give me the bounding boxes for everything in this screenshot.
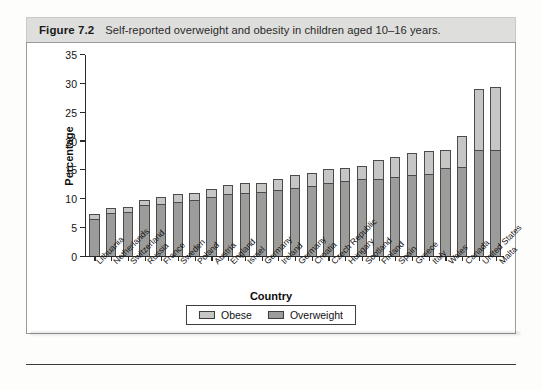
- x-axis-label: France: [161, 259, 168, 266]
- x-axis-label: Italy: [430, 259, 437, 266]
- x-axis-label: Switzerland: [128, 259, 135, 266]
- x-axis-label: England: [228, 259, 235, 266]
- y-tick-label-20: 20: [65, 136, 77, 148]
- x-axis-label: Canada: [463, 259, 470, 266]
- y-tick-label-10: 10: [65, 193, 77, 205]
- bar-segment-obese: [440, 150, 450, 168]
- bar-segment-obese: [424, 151, 434, 174]
- x-axis-label: Malta: [497, 259, 504, 266]
- y-tick-35: [80, 54, 85, 55]
- x-axis-label: Ireland: [279, 259, 286, 266]
- bar-segment-obese: [273, 179, 283, 190]
- bar-segment-obese: [457, 136, 467, 168]
- x-axis-label: Germany: [296, 259, 303, 266]
- bar-slot: [170, 55, 187, 256]
- legend-label-obese: Obese: [221, 309, 252, 321]
- x-axis-label: Germany: [262, 259, 269, 266]
- x-axis-label: Spain: [396, 259, 403, 266]
- bar-slot: [303, 55, 320, 256]
- bar-series-group: [86, 55, 504, 256]
- legend-swatch-obese: [199, 311, 215, 319]
- figure-container: Figure 7.2 Self-reported overweight and …: [26, 17, 516, 334]
- page-canvas: Figure 7.2 Self-reported overweight and …: [0, 0, 542, 390]
- bar-segment-obese: [323, 169, 333, 183]
- stacked-bar[interactable]: [457, 136, 467, 256]
- x-axis-label: Russia: [145, 259, 152, 266]
- stacked-bar[interactable]: [474, 89, 484, 255]
- bar-segment-obese: [474, 89, 484, 150]
- y-tick-label-15: 15: [65, 164, 77, 176]
- y-tick-25: [80, 112, 85, 113]
- bar-slot: [320, 55, 337, 256]
- stacked-bar[interactable]: [89, 214, 99, 256]
- x-axis-label: Croatia: [312, 259, 319, 266]
- bar-slot: [103, 55, 120, 256]
- y-tick-label-0: 0: [71, 251, 77, 263]
- bar-segment-obese: [390, 157, 400, 177]
- x-axis-label: Poland: [195, 259, 202, 266]
- bar-segment-obese: [290, 175, 300, 187]
- x-axis-label: Scotland: [363, 259, 370, 266]
- x-axis-title: Country: [27, 290, 515, 302]
- bar-segment-obese: [173, 194, 183, 202]
- x-axis-label: Czech Republic: [329, 259, 336, 266]
- y-tick-20: [80, 140, 85, 141]
- figure-title: Self-reported overweight and obesity in …: [105, 24, 440, 36]
- y-tick-15: [80, 169, 85, 170]
- y-tick-5: [80, 227, 85, 228]
- bar-slot: [153, 55, 170, 256]
- bar-slot: [471, 55, 488, 256]
- stacked-bar[interactable]: [407, 153, 417, 256]
- bar-segment-obese: [357, 166, 367, 180]
- legend-label-overweight: Overweight: [290, 309, 343, 321]
- bar-slot: [387, 55, 404, 256]
- x-axis-label: Israel: [245, 259, 252, 266]
- bar-segment-obese: [189, 193, 199, 201]
- y-tick-30: [80, 83, 85, 84]
- y-tick-0: [80, 256, 85, 257]
- y-tick-label-25: 25: [65, 107, 77, 119]
- bar-segment-obese: [240, 183, 250, 193]
- bar-segment-overweight: [440, 168, 450, 256]
- bar-slot: [487, 55, 504, 256]
- x-axis-label: Finland: [379, 259, 386, 266]
- bar-segment-obese: [206, 189, 216, 197]
- bar-slot: [86, 55, 103, 256]
- bar-slot: [337, 55, 354, 256]
- bar-slot: [454, 55, 471, 256]
- bar-slot: [270, 55, 287, 256]
- chart-frame: Percentage 05101520253035 LithuaniaNethe…: [26, 42, 516, 334]
- bar-segment-overweight: [89, 219, 99, 256]
- bar-slot: [253, 55, 270, 256]
- bar-slot: [119, 55, 136, 256]
- plot-area: Percentage 05101520253035: [85, 55, 504, 257]
- y-tick-label-35: 35: [65, 49, 77, 61]
- bar-slot: [420, 55, 437, 256]
- x-axis-label: Hungary: [346, 259, 353, 266]
- stacked-bar[interactable]: [440, 150, 450, 256]
- bar-slot: [136, 55, 153, 256]
- x-axis-label: Austria: [212, 259, 219, 266]
- bar-segment-obese: [340, 168, 350, 181]
- bar-slot: [437, 55, 454, 256]
- stacked-bar[interactable]: [490, 87, 500, 256]
- figure-shadow: [30, 332, 520, 336]
- bar-slot: [236, 55, 253, 256]
- bar-slot: [186, 55, 203, 256]
- bar-slot: [287, 55, 304, 256]
- bar-segment-obese: [490, 87, 500, 150]
- legend-item-overweight: Overweight: [268, 309, 343, 321]
- bar-slot: [404, 55, 421, 256]
- bar-segment-obese: [373, 160, 383, 179]
- x-axis-label: Lithuania: [94, 259, 101, 266]
- x-axis-label: United States: [480, 259, 487, 266]
- figure-number: Figure 7.2: [39, 24, 94, 36]
- legend-item-obese: Obese: [199, 309, 252, 321]
- y-tick-10: [80, 198, 85, 199]
- y-tick-label-30: 30: [65, 78, 77, 90]
- bar-segment-obese: [307, 173, 317, 186]
- bar-segment-obese: [256, 183, 266, 191]
- bar-segment-obese: [223, 185, 233, 195]
- chart-legend: Obese Overweight: [186, 305, 356, 325]
- x-axis-label: Greece: [413, 259, 420, 266]
